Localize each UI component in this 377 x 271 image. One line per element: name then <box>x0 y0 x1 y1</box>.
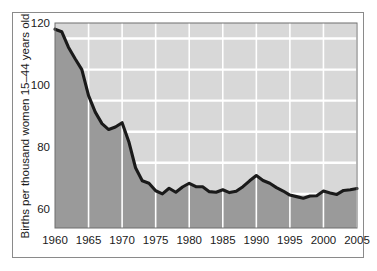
x-tick-label: 1970 <box>109 234 135 246</box>
x-tick-label: 2000 <box>311 234 337 246</box>
y-tick-label: 120 <box>31 17 50 29</box>
x-tick-label: 1980 <box>176 234 202 246</box>
y-axis-tick-labels: 1201008060 <box>31 17 50 215</box>
x-tick-label: 1990 <box>244 234 270 246</box>
x-tick-label: 1995 <box>277 234 303 246</box>
y-tick-label: 100 <box>31 79 50 91</box>
fertility-rate-chart: 1201008060 19601965197019751980198519901… <box>0 0 377 271</box>
x-tick-label: 1975 <box>143 234 169 246</box>
y-axis-title: Births per thousand women 15–44 years ol… <box>19 13 31 238</box>
y-tick-label: 60 <box>37 203 50 215</box>
x-tick-label: 1985 <box>210 234 236 246</box>
x-tick-label: 1965 <box>76 234 102 246</box>
x-tick-label: 2005 <box>344 234 370 246</box>
figure-container: 1201008060 19601965197019751980198519901… <box>0 0 377 271</box>
y-tick-label: 80 <box>37 141 50 153</box>
x-axis-tick-labels: 1960196519701975198019851990199520002005 <box>42 234 370 246</box>
x-tick-label: 1960 <box>42 234 68 246</box>
